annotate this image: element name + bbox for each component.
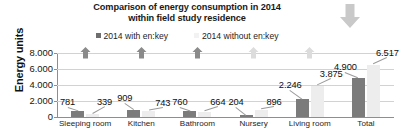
- bar-value-label: 6.517: [370, 48, 404, 58]
- bar-value-label: 2.246: [273, 80, 307, 90]
- legend-item-with-enkey: 2014 with en:key: [96, 31, 169, 41]
- y-axis-tick-label: 0: [11, 111, 53, 122]
- chart-legend: 2014 with en:key 2014 without en:key: [58, 29, 316, 42]
- bar: [367, 65, 380, 117]
- up-arrow-icon: [136, 47, 147, 59]
- up-arrow-icon: [304, 47, 315, 59]
- bar-value-label: 781: [51, 97, 85, 107]
- up-arrow-icon: [248, 47, 259, 59]
- down-arrow-icon: [338, 3, 362, 29]
- bar-value-label: 896: [257, 97, 291, 107]
- chart-title-line-2: within field study residence: [58, 13, 316, 24]
- bar-value-label: 760: [163, 97, 197, 107]
- y-axis-tick-label: 4.000: [11, 79, 53, 90]
- legend-label-without-enkey: 2014 without en:key: [202, 31, 278, 41]
- legend-swatch-dark-icon: [96, 33, 101, 38]
- bar: [352, 78, 365, 117]
- up-arrow-icon: [80, 47, 91, 59]
- y-axis-tick-label: 2.000: [11, 95, 53, 106]
- chart-title: Comparison of energy consumption in 2014…: [58, 2, 316, 24]
- y-axis-tick-mark: [54, 117, 57, 118]
- bar-value-label: 4.900: [328, 62, 362, 72]
- legend-item-without-enkey: 2014 without en:key: [194, 31, 278, 41]
- x-axis-category-label: Total: [331, 119, 401, 128]
- up-arrow-icon: [192, 47, 203, 59]
- x-axis-line: [57, 117, 394, 118]
- chart-title-line-1: Comparison of energy consumption in 2014: [58, 2, 316, 13]
- y-axis-tick-label: 8.000: [11, 47, 53, 58]
- legend-swatch-light-icon: [194, 33, 199, 38]
- bar-value-label: 909: [108, 93, 142, 103]
- bar-value-label: 204: [219, 97, 253, 107]
- y-axis-tick-label: 6.000: [11, 63, 53, 74]
- legend-label-with-enkey: 2014 with en:key: [104, 31, 169, 41]
